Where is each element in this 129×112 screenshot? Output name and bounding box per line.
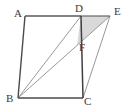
vertex-label-a: A bbox=[14, 8, 22, 19]
segment-bd bbox=[18, 16, 81, 98]
vertex-label-f: F bbox=[79, 42, 85, 53]
vertex-label-b: B bbox=[6, 93, 13, 104]
geometry-figure: A D E F B C bbox=[0, 0, 129, 112]
vertex-label-e: E bbox=[114, 6, 121, 17]
vertex-label-c: C bbox=[84, 96, 91, 107]
edge-ab bbox=[18, 16, 25, 98]
vertex-label-d: D bbox=[75, 3, 83, 14]
